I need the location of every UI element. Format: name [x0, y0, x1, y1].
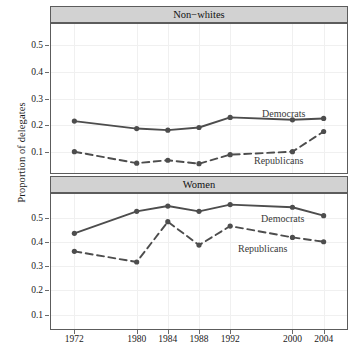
data-point [228, 202, 233, 207]
y-tick-mark [45, 242, 49, 243]
panel-strip-women: Women [50, 176, 348, 193]
trellis-line-chart: Proportion of delegates Non−whites Women… [0, 0, 364, 364]
data-point [165, 158, 170, 163]
panel-non-whites: Non−whites [50, 6, 348, 174]
data-point [196, 243, 201, 248]
y-tick-mark [45, 45, 49, 46]
y-tick-label: 0.4 [31, 67, 43, 77]
y-tick-mark [45, 315, 49, 316]
data-point [228, 152, 233, 157]
y-tick-label: 0.5 [31, 213, 43, 223]
x-tick-label: 1972 [65, 334, 84, 344]
data-point [165, 203, 170, 208]
data-point [228, 115, 233, 120]
y-axis-label: Proportion of delegates [16, 63, 27, 243]
y-tick-label: 0.1 [31, 147, 43, 157]
data-point [134, 209, 139, 214]
x-tick-label: 1992 [221, 334, 240, 344]
y-tick-mark [45, 290, 49, 291]
y-tick-label: 0.2 [31, 120, 43, 130]
y-tick-mark [45, 152, 49, 153]
data-point [196, 209, 201, 214]
x-tick-label: 2000 [283, 334, 302, 344]
y-tick-label: 0.4 [31, 237, 43, 247]
y-tick-label: 0.5 [31, 40, 43, 50]
data-point [290, 235, 295, 240]
y-tick-label: 0.3 [31, 261, 43, 271]
series-annotation-democrats-non-whites: Democrats [262, 108, 305, 119]
data-point [321, 116, 326, 121]
y-tick-mark [45, 72, 49, 73]
data-point [165, 128, 170, 133]
data-point [72, 231, 77, 236]
data-point [321, 129, 326, 134]
x-tick-label: 1980 [127, 334, 146, 344]
series-annotation-republicans-non-whites: Republicans [254, 155, 303, 166]
data-point [72, 249, 77, 254]
data-point [196, 161, 201, 166]
y-tick-label: 0.1 [31, 310, 43, 320]
data-point [134, 126, 139, 131]
y-tick-mark [45, 125, 49, 126]
x-tick-label: 2004 [314, 334, 333, 344]
data-point [134, 259, 139, 264]
series-annotation-republicans-women: Republicans [238, 243, 287, 254]
data-point [290, 205, 295, 210]
data-point [228, 223, 233, 228]
x-tick-label: 1988 [190, 334, 209, 344]
data-point [165, 219, 170, 224]
panel-strip-non-whites: Non−whites [50, 6, 348, 23]
data-point [321, 213, 326, 218]
x-tick-label: 1984 [158, 334, 177, 344]
data-point [134, 161, 139, 166]
data-point [72, 149, 77, 154]
data-point [321, 239, 326, 244]
data-point [72, 119, 77, 124]
data-point [196, 125, 201, 130]
y-tick-mark [45, 99, 49, 100]
panel-women: Women [50, 176, 348, 330]
y-tick-label: 0.3 [31, 94, 43, 104]
y-tick-label: 0.2 [31, 285, 43, 295]
plot-area-non-whites [50, 23, 348, 174]
series-layer [51, 24, 347, 173]
data-point [290, 149, 295, 154]
series-line-republicans [74, 222, 323, 262]
y-tick-mark [45, 218, 49, 219]
y-tick-mark [45, 266, 49, 267]
series-annotation-democrats-women: Democrats [261, 213, 304, 224]
